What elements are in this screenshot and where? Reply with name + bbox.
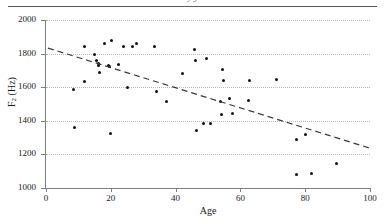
y-axis-label-prefix: F: [6, 101, 17, 107]
y-axis-label-subscript: 2: [10, 98, 18, 102]
x-tick: [111, 188, 112, 192]
y-axis-line: [45, 20, 46, 189]
y-tick: [41, 121, 45, 122]
x-tick-label: 20: [91, 193, 131, 203]
y-axis-label: F2 (Hz): [6, 52, 18, 132]
y-tick: [41, 154, 45, 155]
y-tick: [41, 188, 45, 189]
horizontal-rule: [8, 6, 377, 7]
x-tick-label: 80: [285, 193, 325, 203]
x-tick: [240, 188, 241, 192]
clipped-caption-above-figure: y g: [0, 0, 385, 2]
x-axis-line: [45, 188, 371, 189]
y-tick: [41, 20, 45, 21]
x-tick: [370, 188, 371, 192]
plot-area: [46, 20, 370, 188]
x-axis-label: Age: [46, 205, 370, 216]
x-tick: [46, 188, 47, 192]
y-axis-label-unit: (Hz): [6, 77, 17, 98]
x-tick-label: 0: [26, 193, 66, 203]
y-tick-label: 1000: [0, 182, 36, 192]
x-tick-label: 60: [220, 193, 260, 203]
x-tick: [176, 188, 177, 192]
y-tick: [41, 87, 45, 88]
trend-line-segment: [48, 48, 370, 148]
y-tick: [41, 54, 45, 55]
trend-line: [46, 20, 370, 188]
x-tick-label: 100: [350, 193, 385, 203]
y-tick-label: 1200: [0, 148, 36, 158]
x-tick-label: 40: [156, 193, 196, 203]
y-tick-label: 2000: [0, 14, 36, 24]
scatter-plot-figure: 020406080100 100012001400160018002000 Ag…: [0, 8, 385, 221]
x-tick: [305, 188, 306, 192]
